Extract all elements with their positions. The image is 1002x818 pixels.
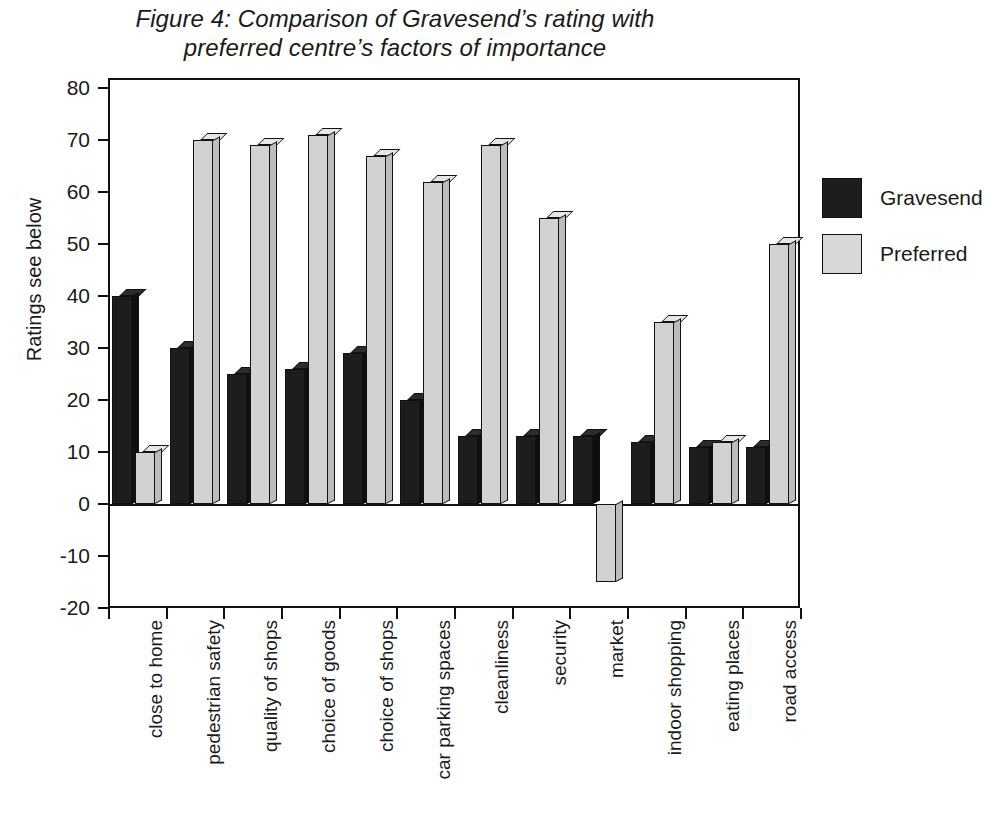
bar-gravesend-car-parking-spaces: [400, 400, 420, 504]
bar-side: [213, 136, 220, 504]
bar-face: [308, 135, 328, 504]
bar-gravesend-eating-places: [689, 447, 709, 504]
x-axis-tick-label: car parking spaces: [434, 620, 453, 779]
x-axis-tick: [627, 608, 629, 619]
x-axis-tick: [512, 608, 514, 619]
bar-gravesend-market: [573, 436, 593, 504]
bar-face: [539, 218, 559, 504]
title-line-1: Figure 4: Comparison of Gravesend’s rati…: [135, 5, 654, 32]
bar-face: [170, 348, 190, 504]
x-axis-tick: [108, 608, 110, 619]
bar-face: [193, 140, 213, 504]
bar-face: [573, 436, 593, 504]
bar-side: [270, 141, 277, 504]
bar-preferred-choice-of-shops: [366, 156, 386, 504]
x-axis-tick: [396, 608, 398, 619]
y-axis-tick: [98, 347, 110, 349]
bar-side: [732, 438, 739, 504]
bar-preferred-security: [539, 218, 559, 504]
bar-gravesend-choice-of-shops: [343, 353, 363, 504]
bar-gravesend-choice-of-goods: [285, 369, 305, 504]
legend-swatch: [822, 234, 862, 274]
legend-item: Gravesend: [822, 178, 1002, 234]
x-axis-tick-label: road access: [780, 620, 799, 722]
y-axis-tick-label: 0: [24, 493, 90, 514]
bar-face: [596, 504, 616, 582]
y-axis-tick: [98, 503, 110, 505]
bar-side: [328, 131, 335, 504]
bar-face: [458, 436, 478, 504]
bar-gravesend-pedestrian-safety: [170, 348, 190, 504]
bar-gravesend-indoor-shopping: [631, 442, 651, 504]
y-axis-tick-label: 60: [24, 181, 90, 202]
bar-face: [400, 400, 420, 504]
bar-preferred-close-to-home: [135, 452, 155, 504]
legend-label: Preferred: [880, 243, 968, 264]
x-axis-tick: [685, 608, 687, 619]
bar-gravesend-cleanliness: [458, 436, 478, 504]
y-axis-tick: [98, 243, 110, 245]
bar-preferred-choice-of-goods: [308, 135, 328, 504]
bar-preferred-indoor-shopping: [654, 322, 674, 504]
x-axis-tick: [742, 608, 744, 619]
bar-side: [559, 214, 566, 504]
legend-label: Gravesend: [880, 187, 983, 208]
bar-side: [501, 141, 508, 504]
y-axis-tick: [98, 87, 110, 89]
x-axis-tick-label: security: [550, 620, 569, 685]
bar-gravesend-close-to-home: [112, 296, 132, 504]
x-axis-tick-label: indoor shopping: [665, 620, 684, 755]
x-axis-tick: [281, 608, 283, 619]
bar-preferred-eating-places: [712, 442, 732, 504]
bar-side: [616, 500, 623, 582]
x-axis-tick-label: cleanliness: [492, 620, 511, 714]
bar-face: [135, 452, 155, 504]
x-axis-tick: [223, 608, 225, 619]
bar-face: [769, 244, 789, 504]
y-axis-tick-label: 50: [24, 233, 90, 254]
bar-face: [631, 442, 651, 504]
bar-preferred-cleanliness: [481, 145, 501, 504]
legend-item: Preferred: [822, 234, 1002, 290]
bar-side: [386, 152, 393, 504]
y-axis-tick-label: -20: [24, 597, 90, 618]
bar-side: [789, 240, 796, 504]
legend: GravesendPreferred: [822, 178, 1002, 290]
bar-side: [443, 178, 450, 504]
figure-container: Figure 4: Comparison of Gravesend’s rati…: [0, 0, 1002, 818]
y-axis-tick: [98, 191, 110, 193]
x-axis-tick: [166, 608, 168, 619]
bar-side: [593, 432, 600, 504]
bar-preferred-road-access: [769, 244, 789, 504]
bar-gravesend-quality-of-shops: [227, 374, 247, 504]
y-axis-tick: [98, 139, 110, 141]
x-axis-tick-label: market: [607, 620, 626, 678]
x-axis-tick-label: choice of shops: [377, 620, 396, 752]
y-axis-tick-label: 30: [24, 337, 90, 358]
bar-gravesend-security: [516, 436, 536, 504]
bar-preferred-market: [596, 504, 616, 582]
title-line-2: preferred centre’s factors of importance: [0, 33, 790, 62]
y-axis-tick: [98, 399, 110, 401]
y-axis-tick-label: 40: [24, 285, 90, 306]
bar-face: [516, 436, 536, 504]
bar-face: [481, 145, 501, 504]
bar-preferred-quality-of-shops: [250, 145, 270, 504]
bar-side: [155, 448, 162, 504]
bar-face: [689, 447, 709, 504]
y-axis-tick: [98, 451, 110, 453]
bar-face: [250, 145, 270, 504]
bar-face: [654, 322, 674, 504]
x-axis-tick-label: pedestrian safety: [204, 620, 223, 765]
x-axis-tick-label: quality of shops: [261, 620, 280, 752]
x-axis-tick: [339, 608, 341, 619]
y-axis-tick-label: 10: [24, 441, 90, 462]
bar-face: [712, 442, 732, 504]
x-axis-tick-label: choice of goods: [319, 620, 338, 753]
bar-face: [343, 353, 363, 504]
y-axis-tick-label: 20: [24, 389, 90, 410]
y-axis-tick-label: 70: [24, 129, 90, 150]
y-axis-tick: [98, 295, 110, 297]
page-title: Figure 4: Comparison of Gravesend’s rati…: [0, 4, 790, 62]
bar-face: [227, 374, 247, 504]
